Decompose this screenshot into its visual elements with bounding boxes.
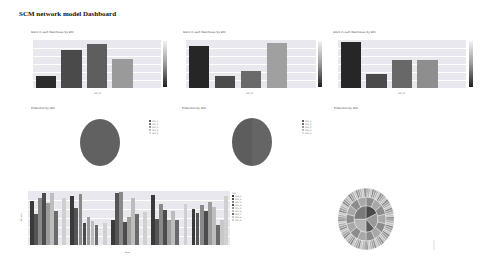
sunburst-chart[interactable] <box>330 188 402 250</box>
bar3-xlabel: SKU_ID <box>398 92 405 94</box>
dashboard-title: SCM network model Dashboard <box>19 10 116 18</box>
bar-2[interactable] <box>61 50 81 88</box>
pie2-legend: SKU_1SKU_2SKU_3SKU_4SKU_5 <box>302 119 311 134</box>
pie1-title: Production by SKU <box>31 107 55 110</box>
legend-swatch <box>232 210 234 212</box>
legend-swatch <box>149 120 151 122</box>
legend-item[interactable]: SKU_5 <box>302 131 311 134</box>
legend-label: SKU_3 <box>305 126 311 128</box>
legend-label: SKU_5 <box>235 207 241 209</box>
gridline <box>28 200 230 201</box>
bar-chart-2[interactable] <box>186 40 316 88</box>
legend-label: SKU_1 <box>305 120 311 122</box>
legend-label: SKU_2 <box>305 123 311 125</box>
colorbar-3 <box>469 41 473 87</box>
legend-swatch <box>149 123 151 125</box>
bar-SKU_7-D2[interactable] <box>95 225 99 245</box>
bar-chart-1[interactable] <box>33 40 161 88</box>
grouped-xlabel: Date <box>125 251 130 253</box>
legend-label: SKU_4 <box>152 129 158 131</box>
legend-swatch <box>149 129 151 131</box>
bar-SKU_9-D4[interactable] <box>184 204 188 245</box>
bar-1[interactable] <box>341 42 361 88</box>
bar-2[interactable] <box>366 74 386 88</box>
legend-label: SKU_1 <box>235 195 241 197</box>
colorbar-1 <box>163 41 167 87</box>
legend-swatch <box>302 120 304 122</box>
bar1-xlabel: SKU_ID <box>94 92 101 94</box>
bar1-title: Stock in each Warehouse by SKU <box>31 31 74 34</box>
legend-swatch <box>232 213 234 215</box>
legend-label: SKU_1 <box>152 120 158 122</box>
legend-label: SKU_4 <box>235 204 241 206</box>
bar-2[interactable] <box>215 76 236 88</box>
bar-SKU_9-D1[interactable] <box>62 198 66 245</box>
legend-swatch <box>302 129 304 131</box>
bar3-title: Stock in each Warehouse by SKU <box>333 31 376 34</box>
bar-1[interactable] <box>189 46 210 88</box>
bar-3[interactable] <box>87 44 107 88</box>
legend-swatch <box>232 198 234 200</box>
grouped-bar-chart[interactable] <box>28 191 230 245</box>
legend-swatch <box>302 123 304 125</box>
legend-swatch <box>232 207 234 209</box>
grouped-legend: SKUSKU_1SKU_2SKU_3SKU_4SKU_5SKU_6SKU_7SK… <box>232 191 241 221</box>
bar-SKU_7-D3[interactable] <box>135 214 139 246</box>
bar-SKU_9-D3[interactable] <box>143 212 147 245</box>
bar-SKU_9-D5[interactable] <box>224 196 228 246</box>
bar-SKU_7-D4[interactable] <box>175 220 179 245</box>
bar-4[interactable] <box>267 43 288 88</box>
legend-label: SKU_3 <box>235 201 241 203</box>
pie3-title: Production by SKU <box>334 107 358 110</box>
bar-3[interactable] <box>392 60 412 88</box>
legend-swatch <box>232 216 234 218</box>
bar2-xlabel: SKU_ID <box>246 92 253 94</box>
bar-1[interactable] <box>36 76 56 88</box>
legend-swatch <box>302 126 304 128</box>
legend-swatch <box>232 204 234 206</box>
bar-SKU_7-D1[interactable] <box>54 211 58 245</box>
legend-label: SKU_6 <box>235 210 241 212</box>
legend-swatch <box>232 195 234 197</box>
legend-swatch <box>149 126 151 128</box>
legend-swatch <box>302 132 304 134</box>
legend-swatch <box>232 219 234 221</box>
pie-chart-2[interactable] <box>232 118 272 166</box>
legend-label: SKU_5 <box>152 132 158 134</box>
grouped-ylabel: Demand <box>20 213 22 221</box>
legend-swatch <box>232 201 234 203</box>
pie2-title: Production by SKU <box>182 107 206 110</box>
legend-label: SKU_4 <box>305 129 311 131</box>
legend-swatch <box>149 132 151 134</box>
legend-item[interactable]: SKU_5 <box>149 131 158 134</box>
legend-label: SKU_8 <box>235 216 241 218</box>
bar-SKU_9-D2[interactable] <box>103 223 107 246</box>
legend-label: SKU_2 <box>152 123 158 125</box>
legend-label: SKU_2 <box>235 198 241 200</box>
bar-4[interactable] <box>417 60 437 88</box>
legend-label: SKU_9 <box>235 219 241 221</box>
pie-chart-1[interactable] <box>80 119 120 166</box>
legend-label: SKU_5 <box>305 132 311 134</box>
colorbar-2 <box>318 41 322 87</box>
bar2-title: Stock in each Warehouse by SKU <box>183 31 226 34</box>
bar-4[interactable] <box>112 59 132 88</box>
legend-item[interactable]: SKU_9 <box>232 218 241 221</box>
bar-chart-3[interactable] <box>338 40 466 88</box>
bar-3[interactable] <box>241 71 262 88</box>
legend-label: SKU_3 <box>152 126 158 128</box>
legend-label: SKU_7 <box>235 213 241 215</box>
sunburst-legend-remnant <box>433 240 435 250</box>
pie1-legend: SKU_1SKU_2SKU_3SKU_4SKU_5 <box>149 119 158 134</box>
